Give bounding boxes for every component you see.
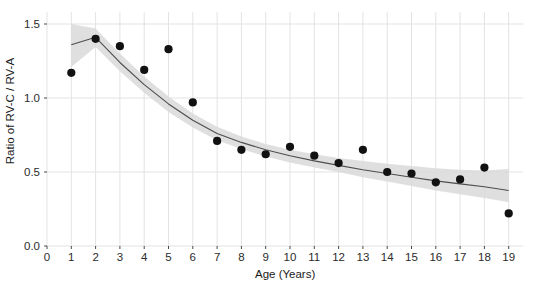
scatter-plot-figure: 012345678910111213141516171819 0.00.51.0…: [0, 0, 537, 283]
data-point: [67, 69, 75, 77]
x-tick-label: 12: [332, 251, 345, 263]
x-tick-label: 6: [190, 251, 196, 263]
x-tick-label: 4: [141, 251, 148, 263]
data-point: [456, 175, 464, 183]
data-point: [92, 35, 100, 43]
data-point: [262, 150, 270, 158]
x-tick-label: 3: [117, 251, 123, 263]
x-tick-label: 17: [454, 251, 467, 263]
data-point: [407, 169, 415, 177]
x-tick-label: 10: [284, 251, 297, 263]
x-tick-label: 5: [165, 251, 171, 263]
data-point: [505, 209, 513, 217]
x-tick-label: 2: [92, 251, 98, 263]
y-tick-label: 1.0: [24, 92, 40, 104]
x-tick-label: 1: [68, 251, 74, 263]
y-tick-label: 1.5: [24, 18, 40, 30]
data-point: [335, 159, 343, 167]
y-tick-label: 0.0: [24, 240, 40, 252]
x-tick-label: 18: [478, 251, 491, 263]
data-point: [140, 66, 148, 74]
chart-container: 012345678910111213141516171819 0.00.51.0…: [0, 0, 537, 283]
x-tick-label: 16: [429, 251, 442, 263]
data-point: [383, 168, 391, 176]
data-point: [116, 42, 124, 50]
data-point: [189, 98, 197, 106]
x-tick-label: 7: [214, 251, 220, 263]
data-point: [310, 152, 318, 160]
data-point: [432, 178, 440, 186]
x-tick-label: 19: [502, 251, 515, 263]
data-point: [359, 146, 367, 154]
x-tick-label: 8: [238, 251, 244, 263]
x-tick-label: 0: [44, 251, 50, 263]
x-tick-label: 9: [262, 251, 268, 263]
data-point: [286, 143, 294, 151]
data-point: [237, 146, 245, 154]
x-tick-label: 11: [308, 251, 320, 263]
y-axis-title: Ratio of RV-C / RV-A: [4, 58, 16, 165]
x-tick-label: 14: [381, 251, 394, 263]
y-tick-label: 0.5: [24, 166, 40, 178]
x-tick-label: 15: [405, 251, 418, 263]
data-point: [164, 45, 172, 53]
data-point: [213, 137, 221, 145]
x-axis-title: Age (Years): [255, 268, 315, 280]
x-tick-label: 13: [357, 251, 370, 263]
data-point: [480, 163, 488, 171]
